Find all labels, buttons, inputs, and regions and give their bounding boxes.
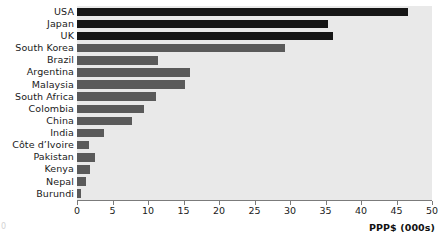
bar-row — [77, 30, 432, 42]
category-axis-labels: USAJapanUKSouth KoreaBrazilArgentinaMala… — [0, 6, 74, 200]
category-label: South Korea — [0, 43, 74, 53]
bar — [77, 189, 81, 198]
x-tick-label: 40 — [355, 205, 367, 216]
bar-row — [77, 67, 432, 79]
x-tick-label: 5 — [109, 205, 115, 216]
bar-row — [77, 139, 432, 151]
bar — [77, 129, 104, 138]
bar-row — [77, 42, 432, 54]
x-tick-label: 0 — [74, 205, 80, 216]
bar-row — [77, 188, 432, 200]
category-label: Kenya — [0, 164, 74, 174]
corner-artifact-mark: 0 — [1, 222, 6, 231]
category-label: India — [0, 128, 74, 138]
category-label: China — [0, 116, 74, 126]
bar — [77, 92, 156, 101]
x-tick-label: 15 — [177, 205, 189, 216]
category-label: Colombia — [0, 104, 74, 114]
bars-layer — [77, 6, 432, 200]
category-label: Nepal — [0, 177, 74, 187]
category-label: Pakistan — [0, 152, 74, 162]
bar-row — [77, 176, 432, 188]
bar-chart: USAJapanUKSouth KoreaBrazilArgentinaMala… — [0, 0, 441, 241]
bar-row — [77, 91, 432, 103]
category-label: Malaysia — [0, 80, 74, 90]
category-label: Côte d’Ivoire — [0, 140, 74, 150]
x-tick-label: 10 — [142, 205, 154, 216]
bar-row — [77, 152, 432, 164]
bar-row — [77, 6, 432, 18]
category-label: Argentina — [0, 67, 74, 77]
bar — [77, 20, 328, 29]
bar — [77, 80, 185, 89]
bar — [77, 56, 158, 65]
bar-row — [77, 127, 432, 139]
bar — [77, 68, 190, 77]
category-label: Brazil — [0, 55, 74, 65]
bar-row — [77, 18, 432, 30]
category-label: UK — [0, 31, 74, 41]
category-label: Japan — [0, 19, 74, 29]
category-label: USA — [0, 7, 74, 17]
bar — [77, 32, 333, 41]
bar — [77, 177, 86, 186]
bar-row — [77, 103, 432, 115]
bar-row — [77, 164, 432, 176]
category-label: South Africa — [0, 92, 74, 102]
x-tick-label: 30 — [284, 205, 296, 216]
plot-area — [77, 6, 432, 200]
bar-row — [77, 115, 432, 127]
bar — [77, 117, 132, 126]
x-axis-title: PPP$ (000s) — [369, 222, 435, 233]
bar — [77, 44, 285, 53]
x-tick-label: 45 — [390, 205, 402, 216]
x-tick-label: 50 — [426, 205, 438, 216]
bar — [77, 153, 95, 162]
x-tick-label: 35 — [319, 205, 331, 216]
bar — [77, 165, 90, 174]
bar-row — [77, 55, 432, 67]
bar — [77, 141, 89, 150]
x-tick-label: 25 — [248, 205, 260, 216]
bar — [77, 105, 144, 114]
bar — [77, 8, 408, 17]
bar-row — [77, 79, 432, 91]
category-label: Burundi — [0, 189, 74, 199]
x-tick-label: 20 — [213, 205, 225, 216]
